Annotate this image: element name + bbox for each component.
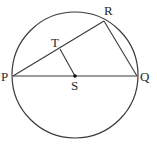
label-T: T — [51, 35, 59, 50]
diagram-svg: P Q R T S — [0, 0, 157, 148]
segment-TS — [60, 49, 75, 76]
geometry-diagram: P Q R T S — [0, 0, 157, 148]
label-P: P — [1, 69, 8, 84]
label-R: R — [104, 3, 113, 18]
label-Q: Q — [140, 69, 150, 84]
label-S: S — [71, 78, 78, 93]
